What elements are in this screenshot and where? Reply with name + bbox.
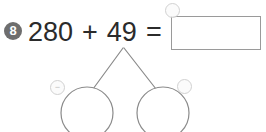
number-bond-right-circle (137, 87, 189, 132)
first-addend: 280 (28, 17, 73, 48)
left-circle-marker-icon: − (50, 80, 65, 95)
equation-expression: 280 + 49 = (28, 17, 162, 47)
problem-number-badge: 8 (4, 22, 22, 40)
right-circle-marker-glyph (178, 80, 191, 93)
plus-operator-icon: + (82, 17, 98, 48)
number-bond-left-branch (93, 48, 123, 89)
answer-box[interactable] (171, 16, 261, 50)
answer-box-marker-icon (165, 3, 180, 18)
answer-input[interactable] (172, 17, 260, 49)
right-circle-marker-icon (177, 79, 192, 94)
second-addend: 49 (107, 17, 137, 48)
number-bond-left-circle (61, 87, 113, 132)
number-bond-right-branch (124, 48, 156, 89)
answer-box-marker-glyph (166, 4, 179, 17)
worksheet-problem: 8 280 + 49 = − (0, 0, 266, 132)
equals-sign-icon: = (146, 17, 162, 48)
left-circle-marker-glyph: − (51, 81, 64, 94)
